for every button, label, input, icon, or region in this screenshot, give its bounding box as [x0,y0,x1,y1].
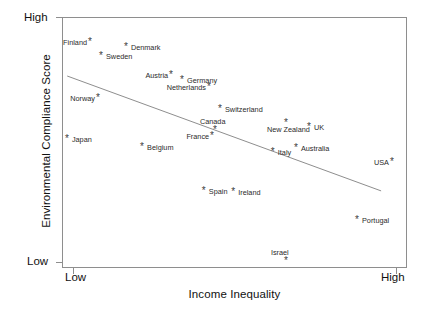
data-point-marker: * [390,157,394,167]
data-point-label: Austria [145,72,168,80]
data-point-label: New Zealand [267,126,310,134]
data-point-marker: * [99,51,103,61]
y-axis-title: Environmental Compliance Score [40,16,52,266]
x-axis-tick-low: Low [65,271,86,283]
data-point-label: Denmark [131,44,161,52]
data-point-marker: * [231,187,235,197]
data-point-label: Japan [72,136,92,144]
x-axis-tick-high: High [381,271,405,283]
data-point-label: Portugal [362,217,389,225]
data-point-marker: * [124,42,128,52]
data-point-label: Australia [301,145,329,153]
x-axis-title: Income Inequality [62,288,407,300]
data-point-label: France [186,133,209,141]
data-point-marker: * [271,147,275,157]
x-axis-tick-mark-high [396,268,397,274]
data-point-marker: * [294,143,298,153]
data-point-marker: * [65,134,69,144]
data-point-marker: * [88,37,92,47]
data-point-label: Canada [200,118,226,126]
data-point-label: Switzerland [225,106,263,114]
data-point-label: Spain [209,188,228,196]
data-point-marker: * [169,70,173,80]
data-point-marker: * [284,256,288,266]
data-point-marker: * [307,122,311,132]
data-point-marker: * [140,142,144,152]
data-point-label: Finland [63,39,87,47]
x-axis-tick-mark-low [73,268,74,274]
data-point-marker: * [355,215,359,225]
data-point-marker: * [207,82,211,92]
data-point-marker: * [202,186,206,196]
data-point-marker: * [96,93,100,103]
data-point-label: Italy [278,149,291,157]
data-point-label: Israel [271,249,289,257]
data-point-marker: * [210,131,214,141]
data-point-label: Norway [70,95,95,103]
data-point-label: USA [374,159,389,167]
data-point-label: Ireland [238,189,260,197]
data-point-label: Belgium [147,144,173,152]
data-point-label: Sweden [106,53,132,61]
data-point-marker: * [218,104,222,114]
scatter-plot-figure: High Low Low High Income Inequality Envi… [0,0,424,310]
data-point-label: Netherlands [167,84,206,92]
data-point-label: UK [314,124,324,132]
